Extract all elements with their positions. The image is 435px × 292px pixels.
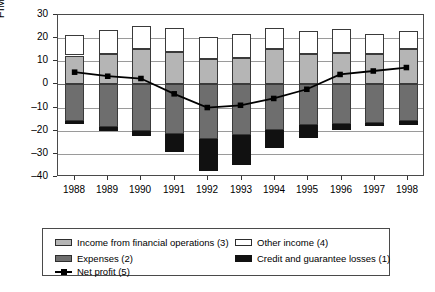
bar-segment-other-income: [65, 35, 84, 56]
legend-item-other-income[interactable]: Other income (4): [235, 237, 328, 248]
other-income-swatch-icon: [235, 239, 252, 246]
y-tick-mark: [53, 176, 57, 177]
plot-area: [57, 14, 424, 176]
bar-segment-income-financial-operations: [399, 49, 418, 85]
bar-segment-other-income: [99, 30, 118, 54]
bar-segment-other-income: [299, 31, 318, 54]
x-tick-mark: [74, 176, 75, 180]
y-axis-title: FIM billion: [0, 0, 6, 52]
bar-segment-expenses: [265, 84, 284, 129]
x-tick-mark: [174, 176, 175, 180]
x-tick-mark: [374, 176, 375, 180]
bar-segment-income-financial-operations: [132, 49, 151, 84]
legend: Income from financial operations (3) Oth…: [42, 228, 390, 276]
bar-segment-income-financial-operations: [99, 54, 118, 84]
bar-segment-credit-guarantee-losses: [232, 135, 251, 165]
chart-container: FIM billion 3020100–10–20–30–40 19881989…: [0, 0, 435, 292]
bar-segment-other-income: [199, 37, 218, 59]
legend-label: Net profit (5): [77, 266, 130, 277]
legend-item-income-financial-operations[interactable]: Income from financial operations (3): [55, 237, 229, 248]
x-tick-mark: [241, 176, 242, 180]
y-tick-label: 0: [8, 78, 48, 88]
y-tick-label: 20: [8, 32, 48, 42]
bar-segment-income-financial-operations: [299, 54, 318, 84]
bar-segment-income-financial-operations: [265, 49, 284, 85]
legend-label: Income from financial operations (3): [77, 237, 229, 248]
bar-segment-other-income: [399, 31, 418, 48]
bar-segment-other-income: [132, 26, 151, 50]
x-tick-mark: [307, 176, 308, 180]
net-profit-line-swatch-icon: [55, 268, 72, 275]
bar-segment-credit-guarantee-losses: [199, 139, 218, 171]
bar-segment-expenses: [165, 84, 184, 134]
bar-segment-expenses: [65, 84, 84, 121]
x-tick-mark: [207, 176, 208, 180]
bar-segment-expenses: [199, 84, 218, 138]
y-tick-label: –30: [8, 148, 48, 158]
x-tick-mark: [140, 176, 141, 180]
x-tick-label: 1998: [387, 184, 427, 195]
bar-segment-income-financial-operations: [199, 59, 218, 84]
bar-segment-income-financial-operations: [165, 52, 184, 84]
y-tick-label: –20: [8, 125, 48, 135]
bar-segment-other-income: [165, 28, 184, 52]
bar-segment-credit-guarantee-losses: [99, 127, 118, 130]
legend-label: Credit and guarantee losses (1): [257, 253, 390, 264]
legend-label: Expenses (2): [77, 253, 133, 264]
x-tick-mark: [274, 176, 275, 180]
x-tick-mark: [407, 176, 408, 180]
bar-segment-income-financial-operations: [65, 56, 84, 85]
bar-segment-credit-guarantee-losses: [265, 130, 284, 149]
bar-segment-credit-guarantee-losses: [332, 124, 351, 130]
bar-segment-income-financial-operations: [332, 53, 351, 84]
losses-swatch-icon: [235, 255, 252, 262]
legend-item-credit-guarantee-losses[interactable]: Credit and guarantee losses (1): [235, 253, 390, 264]
bar-segment-credit-guarantee-losses: [399, 121, 418, 124]
bar-segment-other-income: [232, 34, 251, 58]
bar-segment-expenses: [399, 84, 418, 121]
bar-segment-credit-guarantee-losses: [165, 134, 184, 151]
bar-segment-credit-guarantee-losses: [365, 123, 384, 126]
y-tick-label: 30: [8, 9, 48, 19]
bar-segment-expenses: [299, 84, 318, 125]
legend-item-expenses[interactable]: Expenses (2): [55, 253, 133, 264]
bar-segment-income-financial-operations: [365, 54, 384, 84]
bar-segment-income-financial-operations: [232, 58, 251, 85]
legend-label: Other income (4): [257, 237, 328, 248]
bar-segment-credit-guarantee-losses: [132, 131, 151, 137]
bar-segment-expenses: [332, 84, 351, 123]
bar-segment-expenses: [132, 84, 151, 130]
expenses-swatch-icon: [55, 255, 72, 262]
income-swatch-icon: [55, 239, 72, 246]
bar-segment-credit-guarantee-losses: [65, 121, 84, 123]
x-tick-mark: [341, 176, 342, 180]
y-tick-label: –10: [8, 102, 48, 112]
bar-segment-other-income: [365, 34, 384, 55]
bar-segment-expenses: [232, 84, 251, 135]
bar-segment-expenses: [365, 84, 384, 122]
legend-item-net-profit[interactable]: Net profit (5): [55, 266, 130, 277]
y-tick-label: –40: [8, 171, 48, 181]
bar-segment-other-income: [265, 28, 284, 49]
x-tick-mark: [107, 176, 108, 180]
bar-segment-other-income: [332, 29, 351, 53]
y-tick-label: 10: [8, 55, 48, 65]
bar-segment-credit-guarantee-losses: [299, 125, 318, 138]
bar-segment-expenses: [99, 84, 118, 127]
